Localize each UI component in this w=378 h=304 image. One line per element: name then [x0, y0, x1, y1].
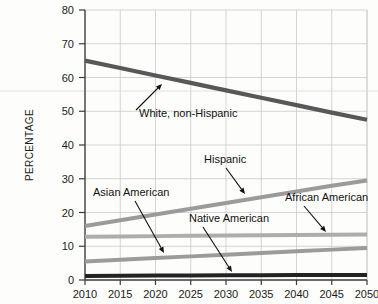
chart-page: 01020304050607080 2010201520202025203020… [0, 0, 378, 304]
y-tick-label: 40 [62, 139, 74, 151]
series-label-white-non-hispanic: White, non-Hispanic [139, 107, 238, 119]
x-tick-label: 2010 [73, 288, 97, 300]
y-axis-tick-labels: 01020304050607080 [62, 4, 74, 286]
population-projection-chart: 01020304050607080 2010201520202025203020… [0, 0, 378, 304]
series-label-african-american: African American [285, 191, 368, 203]
y-tick-label: 70 [62, 38, 74, 50]
y-axis-title-text: PERCENTAGE [24, 109, 35, 181]
x-tick-label: 2040 [284, 288, 308, 300]
y-tick-label: 30 [62, 173, 74, 185]
y-tick-label: 10 [62, 240, 74, 252]
x-tick-label: 2035 [249, 288, 273, 300]
series-label-asian-american: Asian American [93, 186, 169, 198]
y-tick-label: 60 [62, 72, 74, 84]
y-tick-label: 0 [68, 274, 74, 286]
y-tick-label: 80 [62, 4, 74, 16]
x-axis-tick-labels: 201020152020202520302035204020452050 [73, 288, 378, 300]
series-label-hispanic: Hispanic [204, 153, 247, 165]
series-line-native-american [85, 275, 367, 276]
series-line-african-american [85, 234, 367, 236]
x-tick-label: 2050 [355, 288, 378, 300]
y-axis-title: PERCENTAGE [24, 109, 35, 181]
x-tick-label: 2020 [143, 288, 167, 300]
y-tick-label: 20 [62, 207, 74, 219]
series-label-native-american: Native American [189, 212, 269, 224]
x-tick-label: 2025 [179, 288, 203, 300]
x-tick-label: 2015 [108, 288, 132, 300]
x-tick-label: 2030 [214, 288, 238, 300]
x-tick-label: 2045 [320, 288, 344, 300]
y-tick-label: 50 [62, 105, 74, 117]
